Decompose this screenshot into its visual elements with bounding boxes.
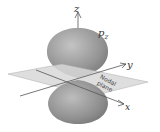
pz-orbital-diagram: z pz y x Nodal plane bbox=[0, 0, 160, 132]
orbital-subscript: z bbox=[104, 33, 108, 41]
orbital-drawing bbox=[0, 0, 160, 132]
z-axis-label: z bbox=[74, 3, 79, 14]
orbital-label: pz bbox=[98, 27, 108, 41]
y-axis-label: y bbox=[127, 59, 133, 70]
x-axis-label: x bbox=[125, 102, 130, 112]
